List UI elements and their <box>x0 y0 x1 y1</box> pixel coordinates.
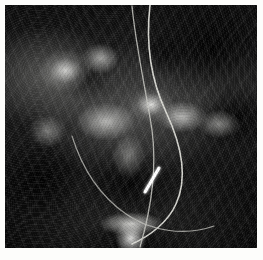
radiograph-figure <box>0 0 263 260</box>
soft-tissue-shadow-layer <box>5 5 257 248</box>
catheter-line-secondary <box>132 6 154 247</box>
catheter-line <box>132 5 182 244</box>
film-grain-layer <box>5 5 257 248</box>
trabecular-texture-layer <box>5 5 257 248</box>
arrow-marker <box>145 168 159 192</box>
bone-opacity-layer <box>5 5 257 248</box>
radiograph-image <box>5 5 257 248</box>
film-density-base-layer <box>5 5 257 248</box>
overlay-vector-layer <box>5 5 257 248</box>
catheter-tail <box>72 136 214 231</box>
